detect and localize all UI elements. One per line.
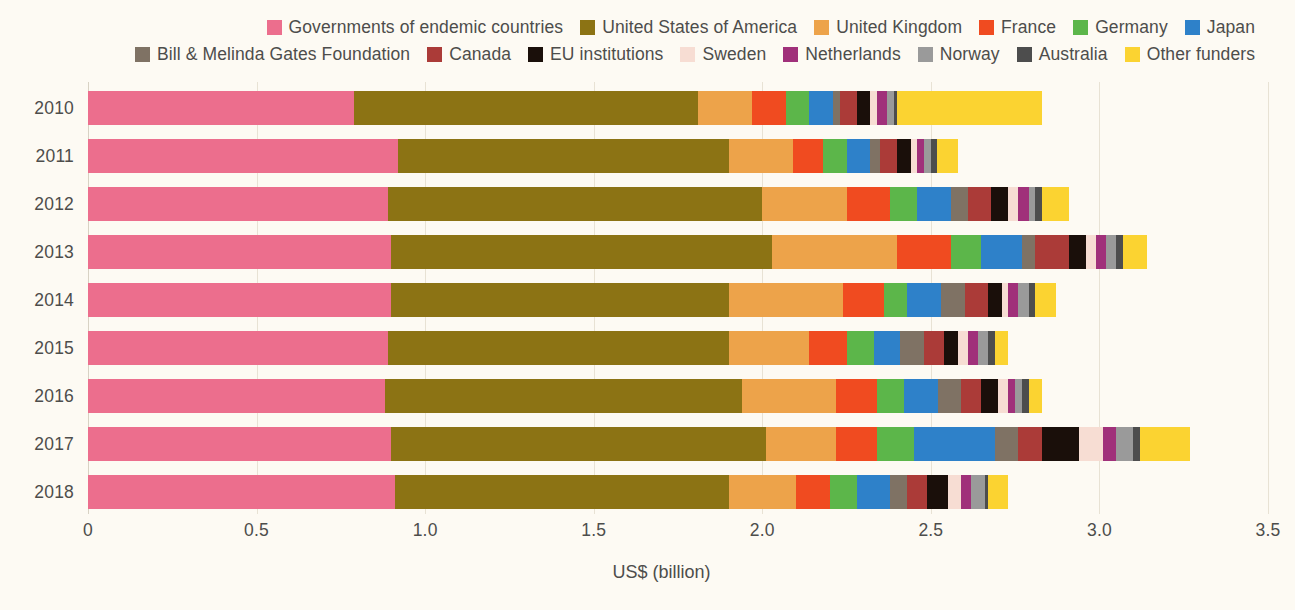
bar-segment[interactable] bbox=[391, 235, 772, 269]
bar-segment[interactable] bbox=[1079, 427, 1103, 461]
legend-item[interactable]: Governments of endemic countries bbox=[267, 19, 564, 37]
bar-segment[interactable] bbox=[88, 475, 395, 509]
bar-segment[interactable] bbox=[924, 139, 931, 173]
legend-item[interactable]: Australia bbox=[1017, 46, 1108, 64]
bar-segment[interactable] bbox=[1106, 235, 1116, 269]
legend-item[interactable]: United Kingdom bbox=[814, 19, 962, 37]
bar-segment[interactable] bbox=[742, 379, 836, 413]
bar-segment[interactable] bbox=[88, 427, 391, 461]
bar-segment[interactable] bbox=[847, 139, 871, 173]
bar-segment[interactable] bbox=[1022, 379, 1029, 413]
bar-segment[interactable] bbox=[1008, 283, 1018, 317]
bar-segment[interactable] bbox=[1123, 235, 1147, 269]
bar-segment[interactable] bbox=[988, 331, 995, 365]
bar-segment[interactable] bbox=[907, 283, 941, 317]
bar-segment[interactable] bbox=[1035, 283, 1055, 317]
bar-segment[interactable] bbox=[1069, 235, 1086, 269]
bar-segment[interactable] bbox=[809, 91, 833, 125]
bar-segment[interactable] bbox=[88, 91, 354, 125]
bar-segment[interactable] bbox=[1018, 427, 1042, 461]
bar-segment[interactable] bbox=[988, 283, 1001, 317]
bar-segment[interactable] bbox=[995, 427, 1019, 461]
bar-segment[interactable] bbox=[890, 187, 917, 221]
bar-segment[interactable] bbox=[897, 139, 910, 173]
bar-segment[interactable] bbox=[938, 379, 962, 413]
legend-item[interactable]: Japan bbox=[1185, 19, 1255, 37]
bar-segment[interactable] bbox=[843, 283, 883, 317]
bar-segment[interactable] bbox=[911, 139, 918, 173]
bar-segment[interactable] bbox=[1035, 187, 1042, 221]
bar-segment[interactable] bbox=[981, 235, 1021, 269]
bar-segment[interactable] bbox=[847, 187, 891, 221]
bar-segment[interactable] bbox=[877, 427, 914, 461]
legend-item[interactable]: Germany bbox=[1073, 19, 1168, 37]
bar-segment[interactable] bbox=[965, 283, 989, 317]
bar-segment[interactable] bbox=[1008, 379, 1015, 413]
bar-segment[interactable] bbox=[729, 283, 844, 317]
bar-segment[interactable] bbox=[840, 91, 857, 125]
bar-segment[interactable] bbox=[924, 331, 944, 365]
bar-segment[interactable] bbox=[951, 235, 981, 269]
bar-segment[interactable] bbox=[752, 91, 786, 125]
bar-segment[interactable] bbox=[904, 379, 938, 413]
bar-segment[interactable] bbox=[927, 475, 947, 509]
bar-segment[interactable] bbox=[1002, 283, 1009, 317]
bar-segment[interactable] bbox=[890, 475, 907, 509]
bar-segment[interactable] bbox=[931, 139, 938, 173]
bar-segment[interactable] bbox=[833, 91, 840, 125]
bar-segment[interactable] bbox=[88, 139, 398, 173]
bar-segment[interactable] bbox=[944, 331, 957, 365]
bar-segment[interactable] bbox=[1086, 235, 1096, 269]
bar-segment[interactable] bbox=[877, 91, 887, 125]
bar-segment[interactable] bbox=[991, 187, 1008, 221]
bar-segment[interactable] bbox=[385, 379, 742, 413]
bar-segment[interactable] bbox=[937, 139, 957, 173]
bar-segment[interactable] bbox=[88, 283, 391, 317]
bar-segment[interactable] bbox=[1116, 235, 1123, 269]
bar-segment[interactable] bbox=[391, 427, 765, 461]
legend-item[interactable]: Netherlands bbox=[783, 46, 900, 64]
bar-segment[interactable] bbox=[897, 235, 951, 269]
legend-item[interactable]: Other funders bbox=[1125, 46, 1255, 64]
bar-segment[interactable] bbox=[398, 139, 728, 173]
bar-segment[interactable] bbox=[1035, 235, 1069, 269]
bar-segment[interactable] bbox=[961, 475, 971, 509]
bar-segment[interactable] bbox=[1029, 379, 1042, 413]
bar-segment[interactable] bbox=[857, 475, 891, 509]
bar-segment[interactable] bbox=[88, 187, 388, 221]
bar-segment[interactable] bbox=[968, 331, 978, 365]
bar-segment[interactable] bbox=[836, 427, 876, 461]
bar-segment[interactable] bbox=[900, 331, 924, 365]
bar-segment[interactable] bbox=[698, 91, 752, 125]
bar-segment[interactable] bbox=[1133, 427, 1140, 461]
bar-segment[interactable] bbox=[914, 427, 995, 461]
bar-segment[interactable] bbox=[907, 475, 927, 509]
legend-item[interactable]: Sweden bbox=[680, 46, 766, 64]
bar-segment[interactable] bbox=[951, 187, 968, 221]
bar-segment[interactable] bbox=[971, 475, 984, 509]
bar-segment[interactable] bbox=[887, 91, 894, 125]
legend-item[interactable]: Norway bbox=[918, 46, 1000, 64]
bar-segment[interactable] bbox=[1116, 427, 1133, 461]
bar-segment[interactable] bbox=[1140, 427, 1191, 461]
bar-segment[interactable] bbox=[880, 139, 897, 173]
legend-item[interactable]: Canada bbox=[427, 46, 511, 64]
bar-segment[interactable] bbox=[870, 91, 877, 125]
bar-segment[interactable] bbox=[897, 91, 1042, 125]
bar-segment[interactable] bbox=[988, 475, 1008, 509]
bar-segment[interactable] bbox=[981, 379, 998, 413]
bar-segment[interactable] bbox=[961, 379, 981, 413]
bar-segment[interactable] bbox=[830, 475, 857, 509]
bar-segment[interactable] bbox=[874, 331, 901, 365]
bar-segment[interactable] bbox=[941, 283, 965, 317]
bar-segment[interactable] bbox=[1008, 187, 1018, 221]
bar-segment[interactable] bbox=[917, 139, 924, 173]
bar-segment[interactable] bbox=[793, 139, 823, 173]
bar-segment[interactable] bbox=[958, 331, 968, 365]
bar-segment[interactable] bbox=[857, 91, 870, 125]
bar-segment[interactable] bbox=[388, 187, 762, 221]
bar-segment[interactable] bbox=[88, 379, 385, 413]
legend-item[interactable]: France bbox=[979, 19, 1056, 37]
bar-segment[interactable] bbox=[766, 427, 837, 461]
bar-segment[interactable] bbox=[1042, 427, 1079, 461]
